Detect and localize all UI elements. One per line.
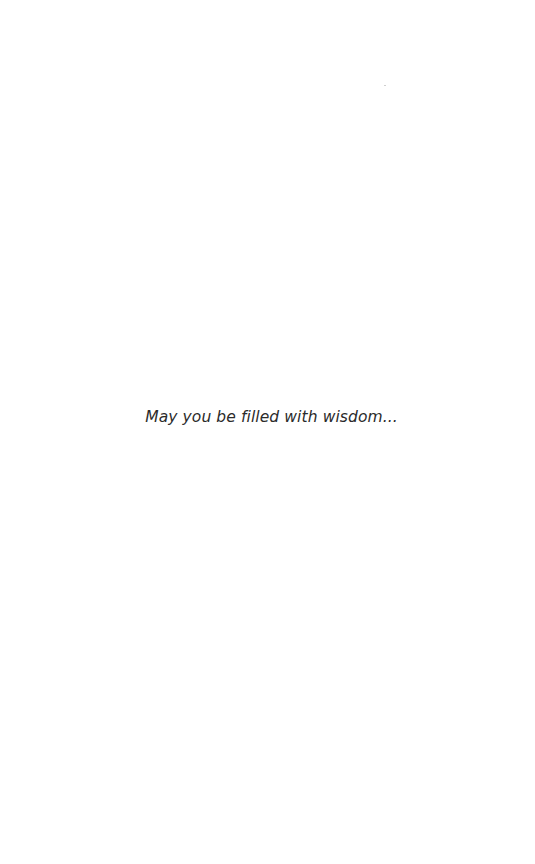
blank-screen: May you be filled with wisdom...	[0, 0, 535, 864]
decorative-speck	[384, 85, 386, 86]
blessing-message: May you be filled with wisdom...	[0, 407, 535, 427]
